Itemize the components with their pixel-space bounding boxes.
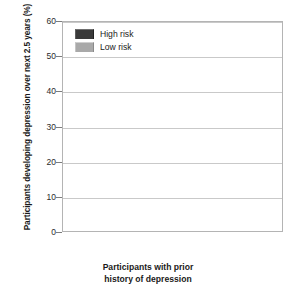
- legend-item-low-risk: Low risk: [75, 41, 133, 52]
- y-tick-label: 0: [30, 228, 56, 236]
- bar-chart-figure: Participants developing depression over …: [0, 0, 296, 291]
- plot-area: High risk Low risk: [62, 21, 283, 232]
- x-axis-title-line1: Participants with prior: [0, 262, 296, 274]
- y-tick-label: 40: [30, 87, 56, 95]
- chart-legend: High risk Low risk: [75, 28, 133, 54]
- light-swatch-icon: [75, 42, 94, 52]
- legend-item-high-risk: High risk: [75, 28, 133, 39]
- dark-swatch-icon: [75, 29, 94, 39]
- y-tick-label: 30: [30, 123, 56, 131]
- y-tick-mark: [56, 232, 62, 233]
- y-tick-label: 20: [30, 158, 56, 166]
- gridline: [63, 128, 282, 129]
- gridline: [63, 57, 282, 58]
- gridline: [63, 198, 282, 199]
- gridline: [63, 163, 282, 164]
- legend-label: Low risk: [100, 42, 132, 52]
- legend-label: High risk: [100, 29, 133, 39]
- y-tick-label: 50: [30, 52, 56, 60]
- y-tick-label: 60: [30, 17, 56, 25]
- x-axis-title: Participants with prior history of depre…: [0, 262, 296, 285]
- y-tick-label: 10: [30, 193, 56, 201]
- gridline: [63, 22, 282, 23]
- gridline: [63, 92, 282, 93]
- x-axis-title-line2: history of depression: [0, 274, 296, 286]
